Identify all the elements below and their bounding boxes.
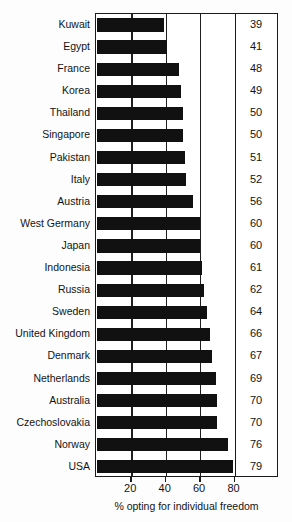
- tick-mark-80: [234, 477, 235, 482]
- value-label: 64: [234, 300, 278, 322]
- bar: [97, 107, 183, 120]
- value-label: 51: [234, 146, 278, 168]
- bar: [97, 350, 212, 363]
- bar: [97, 40, 168, 53]
- value-label: 52: [234, 168, 278, 190]
- category-label: Thailand: [0, 101, 92, 123]
- bar: [97, 394, 218, 407]
- category-label: Korea: [0, 79, 92, 101]
- category-label: Norway: [0, 433, 92, 455]
- value-label: 56: [234, 190, 278, 212]
- bar: [97, 438, 228, 451]
- tick-mark-40: [165, 477, 166, 482]
- value-label: 61: [234, 256, 278, 278]
- bar: [97, 85, 181, 98]
- value-label: 66: [234, 322, 278, 344]
- category-label: Egypt: [0, 35, 92, 57]
- value-label: 60: [234, 212, 278, 234]
- bar: [97, 129, 183, 142]
- category-axis-labels: KuwaitEgyptFranceKoreaThailandSingaporeP…: [0, 13, 92, 477]
- value-label: 49: [234, 79, 278, 101]
- bar: [97, 416, 218, 429]
- bar: [97, 217, 200, 230]
- category-label: Australia: [0, 389, 92, 411]
- bar: [97, 18, 164, 31]
- value-label: 50: [234, 101, 278, 123]
- value-label: 70: [234, 389, 278, 411]
- category-label: Pakistan: [0, 146, 92, 168]
- bar: [97, 328, 211, 341]
- x-axis-ticks: 20406080: [95, 477, 278, 499]
- tick-label-80: 80: [219, 482, 249, 494]
- category-label: Kuwait: [0, 13, 92, 35]
- value-label: 48: [234, 57, 278, 79]
- category-label: USA: [0, 455, 92, 477]
- bar: [97, 261, 202, 274]
- x-axis-caption: % opting for individual freedom: [95, 500, 278, 512]
- bar: [97, 63, 180, 76]
- category-label: Austria: [0, 190, 92, 212]
- value-label: 69: [234, 367, 278, 389]
- value-label: 79: [234, 455, 278, 477]
- value-label: 39: [234, 13, 278, 35]
- value-label: 50: [234, 123, 278, 145]
- tick-mark-60: [199, 477, 200, 482]
- value-label: 41: [234, 35, 278, 57]
- value-label: 70: [234, 411, 278, 433]
- bar: [97, 372, 216, 385]
- tick-label-20: 20: [115, 482, 145, 494]
- value-label: 62: [234, 278, 278, 300]
- value-label: 76: [234, 433, 278, 455]
- bar: [97, 195, 193, 208]
- value-column: 3941484950505152566060616264666769707076…: [234, 13, 278, 477]
- category-label: Indonesia: [0, 256, 92, 278]
- category-label: United Kingdom: [0, 322, 92, 344]
- category-label: Italy: [0, 168, 92, 190]
- bar: [97, 284, 204, 297]
- category-label: Russia: [0, 278, 92, 300]
- value-label: 60: [234, 234, 278, 256]
- category-label: France: [0, 57, 92, 79]
- tick-label-40: 40: [150, 482, 180, 494]
- value-label: 67: [234, 344, 278, 366]
- bar: [97, 173, 187, 186]
- bar-chart-figure: KuwaitEgyptFranceKoreaThailandSingaporeP…: [0, 0, 292, 522]
- bar: [97, 151, 185, 164]
- bar: [97, 306, 207, 319]
- category-label: Japan: [0, 234, 92, 256]
- category-label: Czechoslovakia: [0, 411, 92, 433]
- category-label: Singapore: [0, 123, 92, 145]
- category-label: West Germany: [0, 212, 92, 234]
- bar: [97, 460, 233, 473]
- category-label: Netherlands: [0, 367, 92, 389]
- category-label: Sweden: [0, 300, 92, 322]
- tick-mark-20: [130, 477, 131, 482]
- tick-label-60: 60: [184, 482, 214, 494]
- bar: [97, 239, 200, 252]
- category-label: Denmark: [0, 344, 92, 366]
